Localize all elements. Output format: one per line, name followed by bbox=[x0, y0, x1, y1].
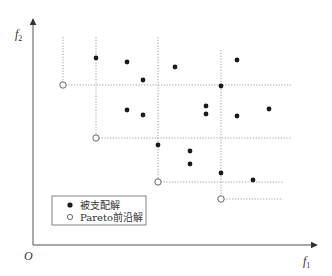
dashed-guide-lines bbox=[63, 37, 292, 199]
dominated-solution-point bbox=[125, 108, 130, 113]
y-axis-label: f2 bbox=[15, 27, 22, 43]
dominated-solution-point bbox=[235, 114, 240, 119]
dominated-solution-point bbox=[188, 149, 193, 154]
dominated-solution-point bbox=[141, 113, 146, 118]
data-points bbox=[60, 56, 272, 203]
dominated-solution-point bbox=[204, 104, 209, 109]
pareto-front-point bbox=[218, 196, 224, 202]
dominated-solution-point bbox=[125, 60, 130, 65]
legend-open-circle-icon bbox=[67, 214, 72, 219]
legend: 被支配解 Pareto前沿解 bbox=[52, 196, 146, 225]
pareto-diagram: f2 f1 O 被支配解 Pareto前沿解 bbox=[0, 0, 332, 276]
legend-filled-circle-icon bbox=[67, 202, 72, 207]
legend-label-dominated: 被支配解 bbox=[80, 199, 120, 211]
x-axis-label: f1 bbox=[303, 254, 310, 270]
dominated-solution-point bbox=[173, 65, 178, 70]
pareto-front-point bbox=[93, 135, 99, 141]
dominated-solution-point bbox=[219, 84, 224, 89]
dominated-solution-point bbox=[141, 78, 146, 83]
dominated-solution-point bbox=[219, 171, 224, 176]
pareto-front-point bbox=[60, 82, 66, 88]
pareto-front-point bbox=[155, 179, 161, 185]
dominated-solution-point bbox=[94, 56, 99, 61]
legend-label-pareto: Pareto前沿解 bbox=[80, 211, 143, 223]
dominated-solution-point bbox=[235, 58, 240, 63]
dominated-solution-point bbox=[204, 112, 209, 117]
dominated-solution-point bbox=[251, 178, 256, 183]
origin-label: O bbox=[24, 249, 33, 263]
dominated-solution-point bbox=[156, 143, 161, 148]
dominated-solution-point bbox=[188, 162, 193, 167]
dominated-solution-point bbox=[267, 107, 272, 112]
